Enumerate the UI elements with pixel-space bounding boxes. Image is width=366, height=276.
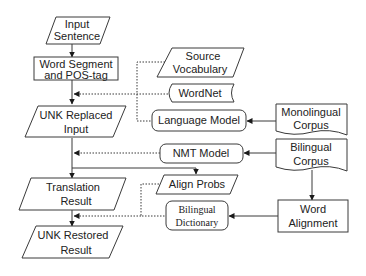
- node-bilingual-dictionary: Bilingual Dictionary: [166, 201, 228, 230]
- language-model-label: Language Model: [158, 114, 240, 126]
- wordnet-label: WordNet: [178, 87, 221, 99]
- input-sentence-line2: Sentence: [54, 30, 100, 42]
- node-translation-result: Translation Result: [19, 178, 126, 210]
- word-segment-line2: and POS-tag: [44, 69, 108, 81]
- bilingual-corpus-line2: Corpus: [293, 155, 329, 167]
- unk-replaced-line1: UNK Replaced: [40, 109, 113, 121]
- translation-result-line1: Translation: [46, 181, 100, 193]
- input-sentence-line1: Input: [65, 18, 89, 30]
- node-monolingual-corpus: Monolingual Corpus: [276, 104, 347, 135]
- node-language-model: Language Model: [152, 110, 246, 131]
- source-vocabulary-line1: Source: [186, 50, 221, 62]
- node-word-segment: Word Segment and POS-tag: [34, 57, 118, 81]
- node-wordnet: WordNet: [169, 84, 234, 102]
- align-probs-label: Align Probs: [169, 178, 226, 190]
- unk-replaced-line2: Input: [64, 123, 88, 135]
- node-nmt-model: NMT Model: [160, 144, 243, 163]
- unk-restored-line1: UNK Restored: [38, 229, 109, 241]
- edge-main-to-align-probs: [72, 168, 196, 174]
- monolingual-corpus-line2: Corpus: [293, 119, 329, 131]
- node-bilingual-corpus: Bilingual Corpus: [276, 139, 347, 171]
- node-source-vocabulary: Source Vocabulary: [157, 48, 244, 77]
- bilingual-corpus-line1: Bilingual: [290, 141, 332, 153]
- source-vocabulary-line2: Vocabulary: [173, 63, 228, 75]
- flowchart-diagram: Input Sentence Word Segment and POS-tag …: [0, 0, 366, 276]
- monolingual-corpus-line1: Monolingual: [281, 106, 340, 118]
- bilingual-dictionary-line1: Bilingual: [178, 204, 215, 215]
- word-alignment-line1: Word: [300, 203, 326, 215]
- node-unk-restored-result: UNK Restored Result: [22, 226, 123, 258]
- translation-result-line2: Result: [60, 195, 91, 207]
- node-align-probs: Align Probs: [156, 175, 238, 194]
- node-word-alignment: Word Alignment: [278, 200, 348, 232]
- node-input-sentence: Input Sentence: [46, 17, 110, 44]
- nmt-model-label: NMT Model: [173, 147, 230, 159]
- unk-restored-line2: Result: [60, 244, 91, 256]
- bilingual-dictionary-line2: Dictionary: [176, 217, 219, 228]
- node-unk-replaced-input: UNK Replaced Input: [25, 106, 126, 137]
- word-alignment-line2: Alignment: [289, 217, 338, 229]
